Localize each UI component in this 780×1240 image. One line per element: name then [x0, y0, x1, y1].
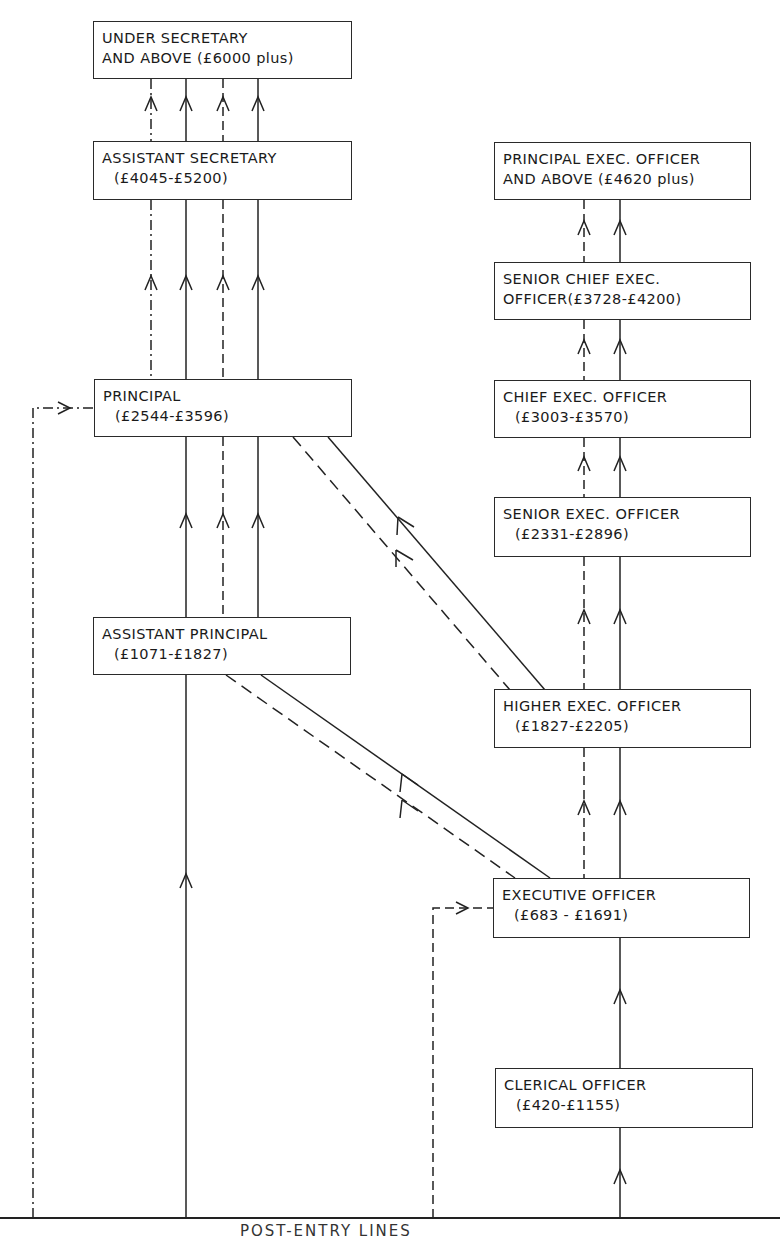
footer-label: POST-ENTRY LINES	[240, 1222, 412, 1240]
box-higher-exec-officer: HIGHER EXEC. OFFICER (£1827-£2205)	[494, 689, 751, 748]
grade-salary: (£2331-£2896)	[503, 524, 742, 544]
grade-salary: (£3003-£3570)	[503, 407, 742, 427]
box-senior-exec-officer: SENIOR EXEC. OFFICER (£2331-£2896)	[494, 497, 751, 557]
grade-title: UNDER SECRETARY	[102, 28, 343, 48]
grade-salary: AND ABOVE (£6000 plus)	[102, 48, 343, 68]
box-principal: PRINCIPAL (£2544-£3596)	[94, 379, 352, 437]
grade-title: PRINCIPAL EXEC. OFFICER	[503, 149, 742, 169]
box-assistant-principal: ASSISTANT PRINCIPAL (£1071-£1827)	[93, 617, 351, 675]
grade-title: SENIOR CHIEF EXEC.	[503, 269, 742, 289]
box-chief-exec-officer: CHIEF EXEC. OFFICER (£3003-£3570)	[494, 380, 751, 438]
grade-title: ASSISTANT PRINCIPAL	[102, 624, 342, 644]
grade-salary: (£1827-£2205)	[503, 716, 742, 736]
grade-title: SENIOR EXEC. OFFICER	[503, 504, 742, 524]
grade-title: PRINCIPAL	[103, 386, 343, 406]
grade-salary: AND ABOVE (£4620 plus)	[503, 169, 742, 189]
grade-salary: (£683 - £1691)	[502, 905, 741, 925]
box-assistant-secretary: ASSISTANT SECRETARY (£4045-£5200)	[93, 141, 352, 200]
grade-title: HIGHER EXEC. OFFICER	[503, 696, 742, 716]
box-executive-officer: EXECUTIVE OFFICER (£683 - £1691)	[493, 878, 750, 938]
box-senior-chief-exec-officer: SENIOR CHIEF EXEC. OFFICER(£3728-£4200)	[494, 262, 751, 320]
grade-salary: (£1071-£1827)	[102, 644, 342, 664]
grade-salary: (£4045-£5200)	[102, 168, 343, 188]
grade-title: CLERICAL OFFICER	[504, 1075, 744, 1095]
grade-salary: (£2544-£3596)	[103, 406, 343, 426]
grade-title: EXECUTIVE OFFICER	[502, 885, 741, 905]
grade-salary: OFFICER(£3728-£4200)	[503, 289, 742, 309]
grade-title: CHIEF EXEC. OFFICER	[503, 387, 742, 407]
box-under-secretary: UNDER SECRETARY AND ABOVE (£6000 plus)	[93, 21, 352, 79]
box-principal-exec-officer: PRINCIPAL EXEC. OFFICER AND ABOVE (£4620…	[494, 142, 751, 200]
grade-salary: (£420-£1155)	[504, 1095, 744, 1115]
box-clerical-officer: CLERICAL OFFICER (£420-£1155)	[495, 1068, 753, 1128]
grade-title: ASSISTANT SECRETARY	[102, 148, 343, 168]
